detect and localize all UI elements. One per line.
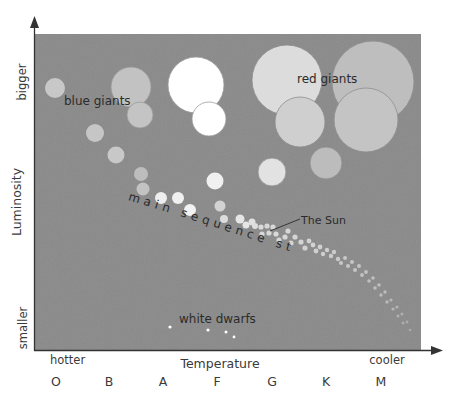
y-axis-title: Luminosity — [9, 167, 24, 236]
main-sequence-star — [346, 264, 350, 268]
main-sequence-star — [353, 268, 357, 272]
red-giant-star — [275, 97, 325, 147]
x-axis-right-label: cooler — [369, 353, 405, 367]
main-sequence-star — [373, 286, 377, 290]
white-dwarf-star — [206, 328, 209, 331]
spectral-class-a: A — [159, 374, 168, 389]
main-sequence-star — [311, 243, 316, 248]
spectral-class-b: B — [105, 374, 114, 389]
hr-diagram: blue giants red giants main sequence sta… — [0, 0, 450, 398]
main-sequence-star — [318, 245, 323, 250]
spectral-class-g: G — [267, 374, 277, 389]
main-sequence-star — [364, 270, 368, 274]
main-sequence-star — [379, 293, 382, 296]
x-axis-arrow-icon — [431, 346, 443, 355]
main-sequence-star — [383, 290, 386, 293]
main-sequence-star — [258, 224, 263, 229]
main-sequence-star — [339, 261, 343, 265]
main-sequence-star — [215, 201, 226, 212]
main-sequence-star — [343, 256, 347, 260]
y-axis-arrow-icon — [30, 16, 39, 28]
main-sequence-star — [385, 300, 388, 303]
main-sequence-star — [357, 264, 361, 268]
main-sequence-star — [401, 313, 404, 316]
main-sequence-star — [134, 167, 148, 181]
main-sequence-star — [332, 250, 336, 254]
main-sequence-star — [172, 192, 184, 204]
blue-giants-label: blue giants — [64, 94, 131, 108]
white-dwarf-star — [233, 336, 236, 339]
main-sequence-star — [397, 315, 400, 318]
spectral-class-row: O B A F G K M — [51, 374, 386, 389]
main-sequence-star — [236, 215, 245, 224]
main-sequence-star — [391, 307, 394, 310]
main-sequence-star — [207, 173, 224, 190]
main-sequence-star — [307, 239, 312, 244]
red-giant-star — [310, 147, 342, 179]
main-sequence-star — [292, 234, 297, 239]
main-sequence-star — [285, 228, 290, 233]
main-sequence-star — [395, 305, 398, 308]
main-sequence-star — [377, 283, 381, 287]
main-sequence-star — [350, 260, 354, 264]
spectral-class-o: O — [51, 374, 61, 389]
white-dwarfs-label: white dwarfs — [179, 312, 256, 326]
main-sequence-star — [371, 276, 375, 280]
white-giant-star — [192, 102, 226, 136]
red-giant-star — [334, 88, 398, 152]
y-axis-top-label: bigger — [15, 63, 29, 100]
x-axis-left-label: hotter — [50, 353, 85, 367]
white-dwarf-star — [168, 325, 171, 328]
blue-giant-star — [127, 102, 153, 128]
x-axis-title: Temperature — [179, 356, 259, 371]
main-sequence-star — [367, 279, 371, 283]
spectral-class-k: K — [322, 374, 331, 389]
main-sequence-star — [409, 329, 412, 332]
main-sequence-star — [406, 321, 409, 324]
main-sequence-star — [264, 223, 269, 228]
main-sequence-star — [336, 257, 340, 261]
main-sequence-star — [314, 249, 319, 254]
main-sequence-star — [389, 298, 392, 301]
main-sequence-star — [329, 254, 333, 258]
y-axis-bottom-label: smaller — [16, 307, 30, 350]
blue-giant-star — [45, 78, 65, 98]
spectral-class-m: M — [376, 374, 387, 389]
blue-giant-star — [86, 124, 104, 142]
red-giants-label: red giants — [297, 72, 357, 86]
red-giant-star — [258, 158, 286, 186]
main-sequence-star — [298, 239, 303, 244]
white-dwarf-star — [225, 331, 228, 334]
main-sequence-star — [360, 273, 364, 277]
sun-label: The Sun — [300, 214, 346, 227]
blue-giant-star — [108, 147, 125, 164]
main-sequence-star — [325, 248, 329, 252]
main-sequence-star — [302, 245, 307, 250]
main-sequence-star — [321, 252, 325, 256]
spectral-class-f: F — [213, 374, 220, 389]
main-sequence-star — [402, 322, 405, 325]
